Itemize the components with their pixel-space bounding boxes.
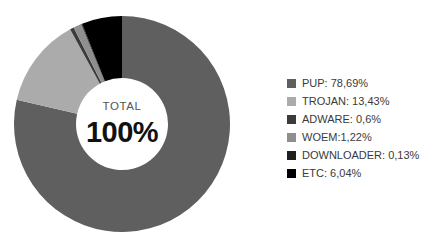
chart-legend: PUP: 78,69%TROJAN: 13,43%ADWARE: 0,6%WOE… [287,74,434,182]
legend-item[interactable]: PUP: 78,69% [287,74,434,92]
legend-item[interactable]: ETC: 6,04% [287,164,434,182]
legend-item[interactable]: DOWNLOADER: 0,13% [287,146,434,164]
legend-label: ETC: 6,04% [302,168,361,179]
legend-item[interactable]: WOEM:1,22% [287,128,434,146]
legend-label: ADWARE: 0,6% [302,114,381,125]
legend-label: WOEM:1,22% [302,132,372,143]
donut-chart-figure: TOTAL 100% PUP: 78,69%TROJAN: 13,43%ADWA… [0,0,434,248]
legend-swatch-icon [287,151,296,160]
legend-swatch-icon [287,169,296,178]
legend-label: DOWNLOADER: 0,13% [302,150,419,161]
legend-label: TROJAN: 13,43% [302,96,389,107]
legend-swatch-icon [287,133,296,142]
legend-item[interactable]: ADWARE: 0,6% [287,110,434,128]
donut-slices-svg [12,14,232,234]
legend-swatch-icon [287,97,296,106]
legend-swatch-icon [287,115,296,124]
legend-label: PUP: 78,69% [302,78,368,89]
legend-item[interactable]: TROJAN: 13,43% [287,92,434,110]
donut-chart: TOTAL 100% [12,14,232,234]
legend-swatch-icon [287,79,296,88]
